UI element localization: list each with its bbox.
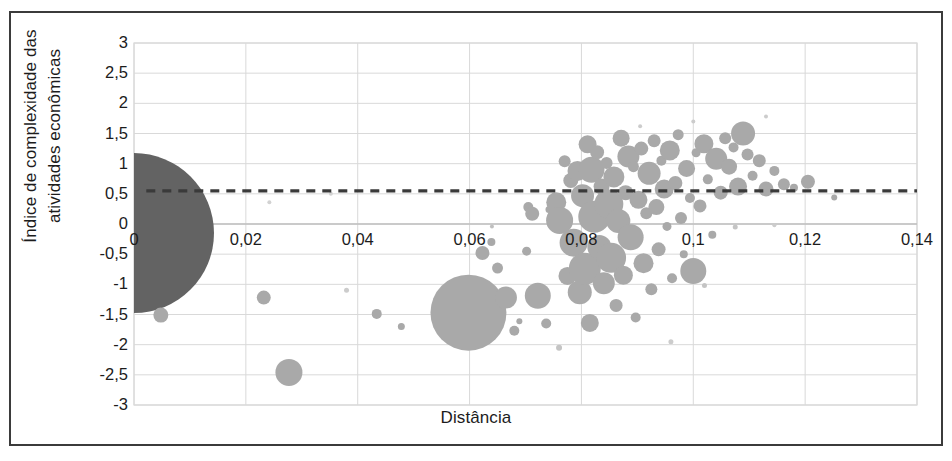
y-tick-label: 3 — [82, 33, 128, 52]
y-tick-label: 1 — [82, 154, 128, 173]
y-axis-title-container: Índice de complexidade dasatividades eco… — [10, 0, 76, 296]
x-tick-label: 0,02 — [216, 230, 276, 249]
y-axis-title-line-1: Índice de complexidade das — [19, 0, 43, 296]
y-tick-label: -1,5 — [82, 305, 128, 324]
y-tick-label: 0,5 — [82, 184, 128, 203]
x-tick-label: 0,14 — [887, 230, 947, 249]
y-tick-label: 2 — [82, 93, 128, 112]
x-tick-label: 0,1 — [663, 230, 723, 249]
x-tick-label: 0,08 — [551, 230, 611, 249]
x-tick-label: 0,04 — [328, 230, 388, 249]
x-tick-label: 0 — [104, 230, 164, 249]
y-tick-label: -2 — [82, 335, 128, 354]
y-tick-label: -1 — [82, 274, 128, 293]
x-tick-label: 0,12 — [775, 230, 835, 249]
y-axis-title: Índice de complexidade dasatividades eco… — [19, 0, 67, 296]
bubble-chart-figure: 32,521,510,50-0,5-1-1,5-2-2,5-3 00,020,0… — [0, 0, 952, 461]
x-axis-title: Distância — [0, 408, 952, 428]
y-axis-title-line-2: atividades econômicas — [43, 0, 67, 296]
x-tick-label: 0,06 — [440, 230, 500, 249]
y-tick-label: 1,5 — [82, 124, 128, 143]
y-tick-label: 2,5 — [82, 63, 128, 82]
y-tick-label: -2,5 — [82, 365, 128, 384]
